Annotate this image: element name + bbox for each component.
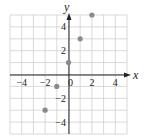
x-tick-label: −2 bbox=[40, 77, 51, 88]
data-point bbox=[43, 108, 48, 113]
y-tick-label: 4 bbox=[61, 21, 66, 32]
x-tick-label: 2 bbox=[89, 77, 94, 88]
data-point bbox=[54, 84, 59, 89]
data-point bbox=[66, 60, 71, 65]
x-axis-arrow-icon bbox=[124, 73, 131, 78]
data-point bbox=[78, 36, 83, 41]
x-axis-label: x bbox=[132, 68, 139, 82]
y-tick-label: −4 bbox=[55, 117, 66, 128]
scatter-plot: x y −4−2024−4−224 bbox=[0, 0, 144, 138]
y-tick-label: −2 bbox=[55, 93, 66, 104]
y-axis-label: y bbox=[63, 0, 70, 14]
axes: x y bbox=[10, 0, 139, 134]
x-tick-label: 4 bbox=[113, 77, 118, 88]
y-axis-arrow-icon bbox=[67, 13, 72, 20]
data-point bbox=[89, 12, 94, 17]
x-tick-label: 0 bbox=[68, 77, 73, 88]
y-tick-label: 2 bbox=[61, 45, 66, 56]
x-tick-label: −4 bbox=[16, 77, 27, 88]
